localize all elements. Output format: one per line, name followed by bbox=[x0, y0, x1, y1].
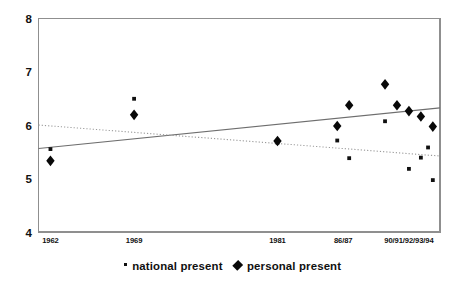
data-point-personal bbox=[381, 79, 389, 90]
legend-item-personal: personal present bbox=[232, 260, 342, 272]
scatter-plot: 45678 19621969198186/8790/91/92/93/94 bbox=[0, 0, 465, 291]
data-point-national bbox=[431, 178, 435, 182]
data-point-personal bbox=[417, 111, 425, 122]
trend-lines bbox=[39, 108, 441, 156]
data-point-personal bbox=[393, 100, 401, 111]
data-point-personal bbox=[345, 100, 353, 111]
data-point-national bbox=[407, 167, 411, 171]
data-point-personal bbox=[429, 121, 437, 132]
data-point-personal bbox=[130, 110, 138, 121]
data-point-personal bbox=[405, 106, 413, 117]
data-point-national bbox=[347, 156, 351, 160]
data-point-national bbox=[426, 146, 430, 150]
y-tick-label: 6 bbox=[26, 120, 32, 132]
data-point-national bbox=[49, 147, 53, 151]
y-tick-label: 8 bbox=[26, 13, 33, 25]
plot-axes bbox=[39, 18, 441, 233]
x-tick-label: 90/91/92/93/94 bbox=[384, 236, 434, 245]
data-point-national bbox=[419, 156, 423, 160]
legend-label-personal: personal present bbox=[247, 260, 341, 272]
x-tick-label: 1969 bbox=[126, 236, 143, 245]
y-tick-labels: 45678 bbox=[26, 13, 33, 239]
y-tick-label: 4 bbox=[26, 227, 33, 239]
legend-item-national: national present bbox=[124, 260, 223, 272]
x-tick-label: 86/87 bbox=[334, 236, 353, 245]
square-marker-icon bbox=[124, 263, 127, 266]
data-point-personal bbox=[273, 136, 281, 147]
series-national-present bbox=[49, 97, 435, 182]
x-tick-label: 1981 bbox=[269, 236, 286, 245]
data-point-personal bbox=[46, 156, 54, 167]
legend-label-national: national present bbox=[132, 260, 222, 272]
x-tick-labels: 19621969198186/8790/91/92/93/94 bbox=[42, 236, 434, 245]
series-personal-present bbox=[46, 79, 437, 166]
chart-container: 45678 19621969198186/8790/91/92/93/94 na… bbox=[0, 0, 465, 291]
chart-legend: national presentpersonal present bbox=[0, 259, 465, 272]
x-tick-label: 1962 bbox=[42, 236, 59, 245]
data-point-national bbox=[132, 97, 136, 101]
y-tick-label: 7 bbox=[26, 66, 32, 78]
diamond-marker-icon bbox=[232, 260, 243, 271]
trend-line-national bbox=[39, 125, 441, 156]
y-tick-label: 5 bbox=[26, 173, 33, 185]
trend-line-personal bbox=[39, 108, 441, 149]
data-point-national bbox=[383, 119, 387, 123]
data-point-personal bbox=[333, 121, 341, 132]
data-point-national bbox=[335, 139, 339, 143]
